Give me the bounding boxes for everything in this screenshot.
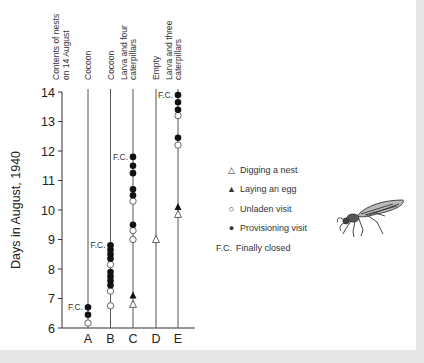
nest-header: caterpillars	[128, 39, 138, 80]
nest-header: Empty	[151, 55, 161, 80]
legend-item: △Digging a nest	[226, 160, 307, 180]
legend-item: ○Unladen visit	[226, 199, 307, 219]
unladen-visit-marker	[130, 236, 136, 242]
nest-label: E	[174, 332, 182, 346]
header-title-line2: on 14 August	[61, 30, 71, 80]
laying-egg-marker	[130, 292, 137, 299]
provisioning-visit-marker	[130, 170, 137, 177]
nest-header: Larva and four	[119, 25, 129, 80]
laying-egg-marker	[175, 203, 182, 210]
nest-header: Larva and three	[164, 20, 174, 80]
finally-closed-label: F.C.	[158, 90, 173, 100]
digging-nest-marker	[175, 210, 182, 217]
provisioning-visit-marker	[130, 162, 137, 169]
nest-label: B	[106, 332, 114, 346]
legend-item: ●Provisioning visit	[226, 219, 307, 239]
legend-symbol: △	[226, 165, 237, 175]
legend-item: ▲Laying an egg	[226, 180, 307, 200]
provisioning-visit-marker	[130, 154, 137, 161]
y-tick-label: 14	[41, 86, 55, 100]
legend: △Digging a nest▲Laying an egg○Unladen vi…	[226, 160, 307, 258]
provisioning-visit-marker	[130, 186, 137, 193]
y-tick-label: 13	[41, 115, 55, 129]
chart: 67891011121314Days in August, 1940ACocoo…	[0, 0, 424, 363]
unladen-visit-marker	[130, 198, 136, 204]
y-tick-label: 6	[48, 322, 55, 336]
y-axis-label: Days in August, 1940	[9, 151, 23, 269]
unladen-visit-marker	[85, 320, 91, 326]
legend-item: F.C.Finally closed	[226, 238, 307, 258]
nest-label: A	[84, 332, 93, 346]
y-tick-label: 7	[48, 292, 55, 306]
nest-header: Cocoon	[83, 50, 93, 80]
digging-nest-marker	[153, 236, 160, 243]
y-tick-label: 11	[42, 174, 55, 188]
provisioning-visit-marker	[85, 311, 92, 318]
legend-symbol: ○	[226, 204, 237, 214]
y-tick-label: 10	[41, 204, 55, 218]
legend-symbol: F.C.	[216, 243, 232, 253]
unladen-visit-marker	[130, 227, 136, 233]
legend-label: Unladen visit	[240, 204, 292, 214]
legend-label: Laying an egg	[240, 184, 297, 194]
provisioning-visit-marker	[107, 269, 114, 276]
legend-label: Finally closed	[236, 243, 291, 253]
unladen-visit-marker	[175, 142, 181, 148]
y-tick-label: 9	[48, 233, 55, 247]
legend-symbol: ▲	[226, 184, 237, 194]
provisioning-visit-marker	[107, 242, 114, 249]
provisioning-visit-marker	[175, 106, 182, 113]
provisioning-visit-marker	[130, 221, 137, 228]
unladen-visit-marker	[107, 261, 113, 267]
legend-label: Provisioning visit	[240, 223, 307, 233]
provisioning-visit-marker	[175, 99, 182, 106]
finally-closed-label: F.C.	[113, 152, 128, 162]
provisioning-visit-marker	[175, 134, 182, 141]
nest-label: D	[151, 332, 160, 346]
legend-symbol: ●	[226, 223, 237, 233]
nest-label: C	[128, 332, 137, 346]
provisioning-visit-marker	[175, 92, 182, 99]
header-title-line1: Contents of nests	[51, 14, 61, 80]
unladen-visit-marker	[175, 112, 181, 118]
digging-nest-marker	[130, 300, 137, 307]
nest-header: caterpillars	[173, 39, 183, 80]
wasp-illustration	[337, 190, 407, 240]
nest-header: Cocoon	[106, 50, 116, 80]
y-tick-label: 12	[41, 145, 55, 159]
provisioning-visit-marker	[85, 304, 92, 311]
unladen-visit-marker	[107, 288, 113, 294]
finally-closed-label: F.C.	[68, 302, 83, 312]
provisioning-visit-marker	[130, 192, 137, 199]
finally-closed-label: F.C.	[90, 240, 105, 250]
unladen-visit-marker	[107, 303, 113, 309]
legend-label: Digging a nest	[240, 165, 298, 175]
y-tick-label: 8	[48, 263, 55, 277]
